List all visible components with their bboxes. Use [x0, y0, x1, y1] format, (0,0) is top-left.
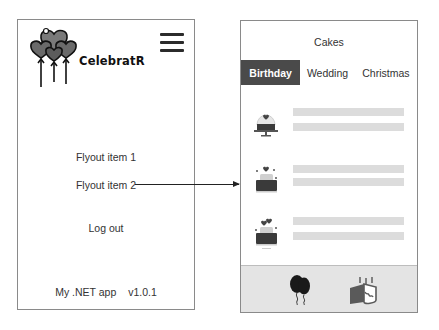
list-item[interactable]	[241, 217, 417, 257]
placeholder-line	[293, 232, 404, 240]
hamburger-menu-icon[interactable]	[160, 33, 184, 53]
flyout-item-2[interactable]: Flyout item 2	[18, 179, 194, 191]
tab-wedding[interactable]: Wedding	[300, 60, 354, 85]
cake-dome-icon	[251, 105, 281, 139]
cakes-screen: Cakes Birthday Wedding Christmas	[240, 20, 418, 313]
app-name: My .NET app	[55, 286, 116, 298]
tab-birthday[interactable]: Birthday	[241, 60, 300, 85]
brand-name: CelebratR	[79, 54, 145, 68]
heart-balloons-icon	[30, 26, 78, 88]
birthday-cake-icon[interactable]	[346, 273, 380, 307]
flyout-screen: CelebratR Flyout item 1 Flyout item 2 Lo…	[17, 19, 195, 310]
list-item[interactable]	[241, 163, 417, 203]
page-title: Cakes	[241, 36, 417, 48]
bottom-tab-bar	[241, 265, 417, 312]
placeholder-line	[293, 123, 404, 131]
placeholder-line	[293, 108, 404, 116]
app-version: v1.0.1	[128, 286, 157, 298]
flyout-item-1[interactable]: Flyout item 1	[18, 151, 194, 163]
list-item[interactable]	[241, 105, 417, 145]
placeholder-line	[293, 165, 404, 173]
cake-hearts-icon	[251, 217, 281, 251]
category-tabs: Birthday Wedding Christmas	[241, 60, 417, 85]
tab-christmas[interactable]: Christmas	[355, 60, 417, 85]
placeholder-line	[293, 178, 404, 186]
placeholder-line	[293, 217, 404, 225]
flyout-footer: My .NET appv1.0.1	[18, 286, 194, 298]
navigation-arrow	[135, 184, 239, 185]
balloons-icon[interactable]	[284, 273, 318, 307]
log-out-item[interactable]: Log out	[18, 222, 194, 234]
cake-heart-icon	[251, 163, 281, 197]
